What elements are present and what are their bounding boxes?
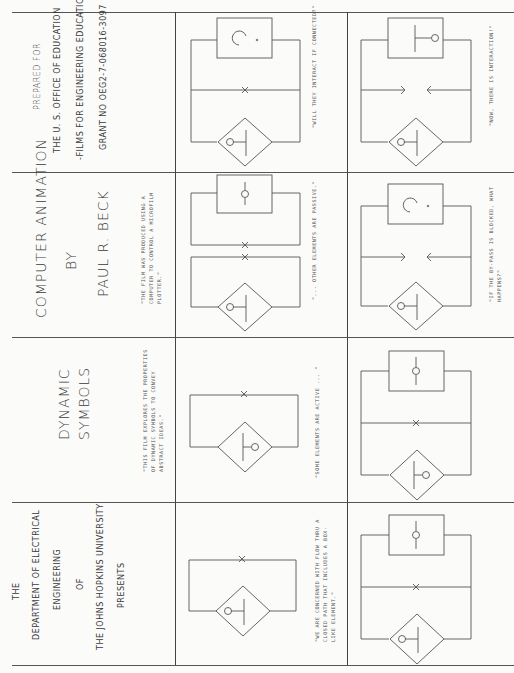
subtitle-line: SYMBOLS <box>76 367 92 440</box>
title-line: THE U. S. OFFICE OF EDUCATION <box>53 7 62 153</box>
film-title: COMPUTER ANIMATION <box>33 138 49 318</box>
title-line: THE JOHNS HOPKINS UNIVERSITY <box>96 503 105 650</box>
caption: "IF THE BY-PASS IS BLOCKED, WHAT HAPPENS… <box>487 186 503 302</box>
title-line: PRESENTS <box>117 562 126 608</box>
diagram-simple-loop <box>185 337 305 502</box>
caption: "THE FILM WAS PRODUCED USING A COMPUTER … <box>139 192 163 304</box>
author-name: PAUL R. BECK <box>95 190 111 297</box>
caption: "... OTHER ELEMENTS ARE PASSIVE." <box>310 181 318 300</box>
diagram-box-loop <box>355 337 480 502</box>
diagram-flow-loop <box>185 502 305 667</box>
column-divider <box>175 12 176 665</box>
caption: "WE ARE CONCERNED WITH FLOW THRU A CLOSE… <box>313 519 337 642</box>
by-label: BY <box>63 251 79 270</box>
title-line: ENGINEERING <box>53 549 62 610</box>
title-line: -FILMS FOR ENGINEERING EDUCATION- <box>76 0 85 160</box>
diagram-arrows <box>355 12 480 172</box>
diagram-split-loop <box>185 172 305 337</box>
diagram-box-question <box>185 12 305 172</box>
column-divider <box>347 12 348 665</box>
diagram-blocked-bypass <box>355 172 480 337</box>
caption: "WILL THEY INTERACT IF CONNECTED?" <box>310 5 318 128</box>
title-line: DEPARTMENT OF ELECTRICAL <box>32 510 41 640</box>
caption: "THIS FILM EXPLORES THE PROPERTIES OF DY… <box>141 349 165 472</box>
title-line: OF <box>76 578 85 590</box>
diagram-box-loop <box>355 502 480 667</box>
caption: "NOW, THERE IS INTERACTION!" <box>487 25 495 126</box>
title-line: GRANT NO OEG2-7-068016-3097 <box>99 4 108 150</box>
title-line: PREPARED FOR <box>33 43 42 110</box>
title-line: THE <box>12 583 21 600</box>
subtitle-line: DYNAMIC <box>56 368 72 440</box>
caption: "SOME ELEMENTS ARE ACTIVE ... " <box>313 366 321 478</box>
